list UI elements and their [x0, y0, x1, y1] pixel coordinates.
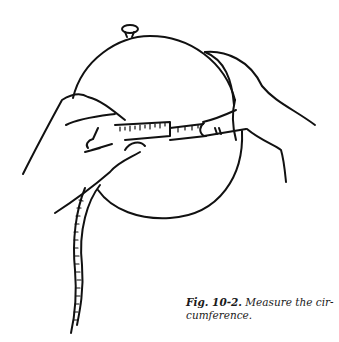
caption-line1: Measure the cir-: [242, 296, 334, 308]
right-hand: [205, 52, 315, 125]
left-hand: [23, 94, 125, 174]
balloon-knot-icon: [122, 25, 138, 37]
figure-caption: Fig. 10-2. Measure the cir- cumference.: [186, 296, 336, 322]
caption-line2: cumference.: [186, 309, 252, 321]
tape-measure: [115, 122, 170, 140]
balloon-outline: [73, 36, 235, 100]
figure: Fig. 10-2. Measure the cir- cumference.: [0, 0, 339, 342]
balloon-measure-illustration: [0, 0, 339, 342]
caption-label: Fig. 10-2.: [186, 296, 242, 308]
